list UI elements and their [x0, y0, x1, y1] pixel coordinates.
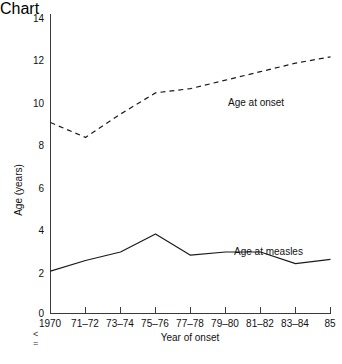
x-tick-label-85: 85	[324, 318, 336, 329]
series-annotation-age-at-onset: Age at onset	[228, 97, 284, 108]
x-axis-tick-marks	[51, 307, 331, 314]
x-tick-label-1970: 1970	[39, 318, 62, 329]
figure-container: 14 12 10 8 6 4 2 0 Age (years)	[0, 0, 342, 364]
x-tick-label-81-82: 81–82	[246, 318, 274, 329]
margin-glyph-group: < =	[33, 330, 38, 348]
series-annotation-age-at-measles: Age at measles	[234, 246, 303, 257]
y-tick-label-6: 6	[38, 183, 44, 194]
x-tick-label-77-78: 77–78	[176, 318, 204, 329]
y-tick-label-2: 2	[38, 268, 44, 279]
x-tick-label-79-80: 79–80	[211, 318, 239, 329]
source-caption	[78, 353, 340, 362]
y-tick-label-10: 10	[33, 98, 45, 109]
equals-glyph: =	[33, 339, 38, 348]
x-tick-label-83-84: 83–84	[281, 318, 309, 329]
series-line-age-at-onset	[51, 57, 331, 138]
x-axis-tick-labels: 1970 71–72 73–74 75–76 77–78 79–80 81–82…	[39, 318, 336, 329]
y-axis-title: Age (years)	[13, 164, 24, 216]
x-tick-label-75-76: 75–76	[141, 318, 169, 329]
line-chart: 14 12 10 8 6 4 2 0 Age (years)	[0, 0, 342, 364]
x-tick-label-73-74: 73–74	[106, 318, 134, 329]
y-tick-label-12: 12	[33, 55, 45, 66]
x-tick-label-71-72: 71–72	[71, 318, 99, 329]
y-tick-label-8: 8	[38, 140, 44, 151]
y-tick-label-4: 4	[38, 225, 44, 236]
y-tick-label-14: 14	[33, 13, 45, 24]
y-axis-tick-labels: 14 12 10 8 6 4 2 0	[33, 13, 45, 319]
x-axis-title: Year of onset	[161, 332, 220, 343]
